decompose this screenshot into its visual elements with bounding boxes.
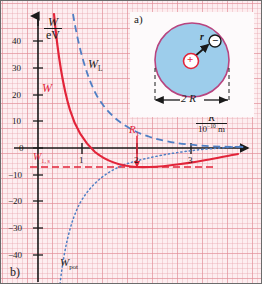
x-tick-label-3: 3: [188, 155, 193, 165]
w-pot-label-symbol: W: [60, 256, 69, 268]
y-tick-label-30: 30: [12, 63, 21, 73]
x-axis-den-unit: m: [218, 124, 225, 134]
y-tick-label-0: 0: [19, 143, 24, 153]
r1-label-symbol: R: [129, 123, 136, 135]
w-l-label-symbol: W: [88, 57, 98, 71]
y-tick-label-m20: −20: [8, 196, 22, 206]
x-tick-label-1: 1: [79, 155, 84, 165]
r1-label-subscript: 1: [136, 130, 139, 137]
radius-vector-label: r: [200, 32, 204, 42]
w-l-curve-label: WL: [88, 58, 103, 73]
diameter-label: 2 R: [181, 93, 196, 104]
proton-charge-symbol: +: [187, 54, 193, 65]
y-axis-label: W eV: [44, 16, 62, 41]
w1s-level-label: W1, s: [33, 152, 50, 164]
x-axis-label-denominator: 10−10 m: [196, 123, 227, 134]
x-axis-den-base: 10: [198, 124, 207, 134]
y-axis-label-denominator: eV: [44, 28, 62, 41]
r1-label: R1: [129, 124, 139, 138]
y-tick-label-10: 10: [12, 116, 21, 126]
y-tick-label-20: 20: [12, 90, 21, 100]
y-tick-label-m30: −30: [8, 223, 22, 233]
w-total-curve-label: W: [42, 82, 52, 94]
w-pot-curve-label: Wpot: [60, 257, 78, 271]
y-tick-label-40: 40: [12, 36, 21, 46]
w1s-label-subscript: 1, s: [41, 157, 50, 164]
panel-a-label: a): [134, 14, 143, 25]
w-pot-label-subscript: pot: [69, 263, 78, 270]
panel-b-label: b): [10, 266, 20, 278]
y-tick-label-m40: −40: [8, 250, 22, 260]
inset-panel-a: a) + − r 2 R: [130, 12, 254, 117]
x-axis-den-exponent: −10: [207, 123, 216, 129]
y-tick-label-m10: −10: [8, 170, 22, 180]
y-axis-label-numerator: W: [44, 16, 62, 28]
x-tick-label-2: 2: [134, 155, 139, 165]
figure-container: W eV R 10−10 m 40 30 20 10 0 −10 −20 −30…: [0, 0, 262, 284]
electron-charge-symbol: −: [212, 35, 218, 46]
w-l-label-subscript: L: [98, 64, 103, 73]
